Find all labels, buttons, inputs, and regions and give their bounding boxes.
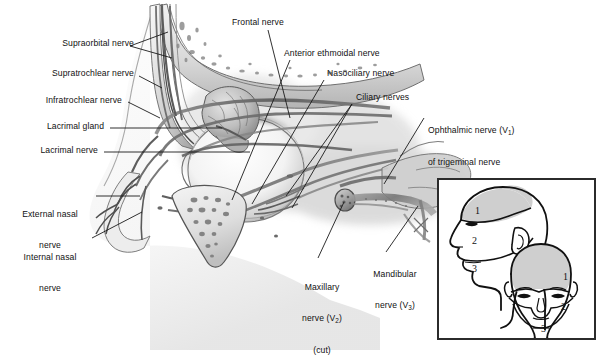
label-nasociliary-nerve: Nasociliary nerve <box>327 68 394 78</box>
ophthalmic-subscript: 1 <box>508 129 512 136</box>
trigeminal-dermatome-inset: 1 2 3 <box>437 178 596 340</box>
mandibular-text-pre: nerve (V <box>375 300 408 310</box>
maxillary-subscript: 2 <box>335 317 339 324</box>
label-supraorbital-nerve: Supraorbital nerve <box>12 38 134 48</box>
frontal-zone-label-2: 2 <box>561 301 566 312</box>
maxillary-nerve-cut-stump <box>335 189 355 211</box>
label-infratrochlear-nerve: Infratrochlear nerve <box>0 95 122 105</box>
label-supratrochlear-nerve: Supratrochlear nerve <box>6 68 134 78</box>
label-maxillary-nerve: Maxillary nerve (V2) (cut) <box>286 262 358 359</box>
label-internal-nasal-nerve: Internal nasal nerve <box>8 232 92 303</box>
lateral-zone-label-1: 1 <box>475 205 480 216</box>
dermatome-diagrams: 1 2 3 <box>439 180 594 338</box>
frontal-zone-label-1: 1 <box>563 271 568 282</box>
ophthalmic-text-pre: Ophthalmic nerve (V <box>428 125 508 135</box>
label-ciliary-nerves: Ciliary nerves <box>356 92 409 102</box>
label-mandibular-nerve: Mandibular nerve (V3) <box>356 249 434 321</box>
label-lacrimal-gland: Lacrimal gland <box>14 121 104 131</box>
lateral-zone-label-2: 2 <box>472 235 477 246</box>
maxillary-text-post: ) <box>339 313 342 323</box>
label-anterior-ethmoidal-nerve: Anterior ethmoidal nerve <box>284 48 380 58</box>
ophthalmic-text-post: ) <box>512 125 515 135</box>
label-ophthalmic-nerve: Ophthalmic nerve (V1) of trigeminal nerv… <box>428 105 515 177</box>
label-frontal-nerve: Frontal nerve <box>232 17 284 27</box>
ophthalmic-line2: of trigeminal nerve <box>428 157 515 167</box>
mandibular-subscript: 3 <box>408 304 412 311</box>
maxillary-text-pre: nerve (V <box>302 313 335 323</box>
mandibular-text-post: ) <box>412 300 415 310</box>
frontal-zone-label-3: 3 <box>541 323 546 334</box>
label-lacrimal-nerve: Lacrimal nerve <box>14 145 98 155</box>
lateral-zone-label-3: 3 <box>472 263 477 274</box>
